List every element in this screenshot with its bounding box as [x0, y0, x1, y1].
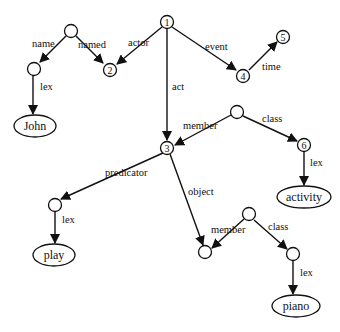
- edge-label-act: act: [172, 81, 184, 92]
- node-play-label: play: [44, 248, 65, 262]
- node-2-label: 2: [108, 65, 113, 76]
- node-anon-predicator: [49, 199, 62, 212]
- node-anon-object: [199, 246, 212, 259]
- edge-label-object: object: [188, 186, 214, 197]
- edge-label-lex-john: lex: [40, 81, 54, 92]
- node-1-label: 1: [165, 17, 170, 28]
- edge-label-named: named: [78, 39, 107, 50]
- edge-label-class-2: class: [268, 221, 288, 232]
- node-anon-piano-root: [243, 208, 256, 221]
- edge-label-actor: actor: [128, 37, 149, 48]
- node-anon-piano-class: [287, 248, 300, 261]
- node-activity-label: activity: [286, 190, 322, 204]
- edge-label-time: time: [262, 61, 281, 72]
- edge-label-lex-piano: lex: [300, 267, 314, 278]
- edge-label-lex-play: lex: [62, 214, 76, 225]
- edge-object: [170, 154, 203, 245]
- node-anon-name: [28, 63, 41, 76]
- node-john-label: John: [24, 119, 47, 133]
- node-4-label: 4: [241, 71, 246, 82]
- edge-label-name: name: [32, 38, 55, 49]
- edge-label-event: event: [205, 41, 228, 52]
- edge-label-member-1: member: [183, 120, 218, 131]
- node-5-label: 5: [281, 32, 286, 43]
- node-3-label: 3: [165, 143, 170, 154]
- edge-label-predicator: predicator: [105, 167, 148, 178]
- edge-label-member-2: member: [211, 224, 246, 235]
- node-6-label: 6: [302, 140, 307, 151]
- edge-label-lex-activity: lex: [310, 157, 324, 168]
- nodes: John 1 2 4 5 3 6 activity play piano: [14, 16, 331, 318]
- node-piano-label: piano: [283, 299, 310, 313]
- node-anon-activity-root: [231, 106, 244, 119]
- node-anon-name-root: [65, 25, 78, 38]
- semantic-network-diagram: John 1 2 4 5 3 6 activity play piano nam…: [0, 0, 340, 332]
- edge-label-class-1: class: [262, 113, 282, 124]
